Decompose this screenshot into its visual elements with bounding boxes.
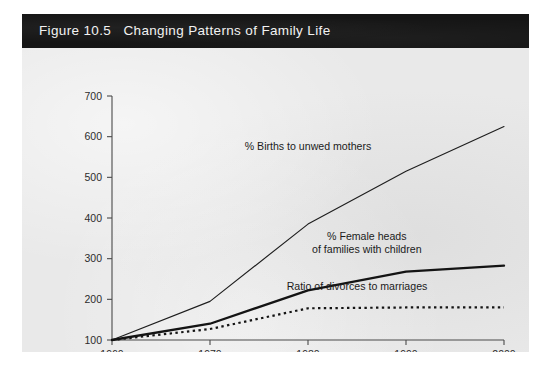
figure-panel: Figure 10.5 Changing Patterns of Family … bbox=[22, 14, 529, 352]
x-tick-label: 1960 bbox=[100, 348, 124, 352]
y-tick-label: 500 bbox=[84, 171, 102, 183]
series-label: % Female heads bbox=[327, 230, 407, 242]
series-line bbox=[112, 266, 504, 340]
figure-header-bar: Figure 10.5 Changing Patterns of Family … bbox=[22, 14, 529, 48]
y-tick-label: 600 bbox=[84, 130, 102, 142]
x-tick-label: 1980 bbox=[296, 348, 320, 352]
line-chart-svg: 100200300400500600700 196019701980199020… bbox=[22, 48, 529, 352]
chart-series-labels: % Births to unwed mothers% Female headso… bbox=[245, 140, 428, 292]
chart-series-lines bbox=[112, 127, 504, 341]
x-tick-label: 1990 bbox=[394, 348, 418, 352]
figure-title: Figure 10.5 Changing Patterns of Family … bbox=[39, 23, 331, 38]
x-axis-ticks: 19601970198019902000 bbox=[100, 340, 516, 352]
y-tick-label: 700 bbox=[84, 90, 102, 102]
x-tick-label: 2000 bbox=[492, 348, 516, 352]
series-label: % Births to unwed mothers bbox=[245, 140, 372, 152]
y-tick-label: 200 bbox=[84, 293, 102, 305]
chart-axes bbox=[112, 96, 504, 340]
series-label: of families with children bbox=[312, 243, 422, 255]
x-tick-label: 1970 bbox=[198, 348, 222, 352]
y-tick-label: 400 bbox=[84, 212, 102, 224]
series-label: Ratio of divorces to marriages bbox=[287, 280, 428, 292]
y-axis-ticks: 100200300400500600700 bbox=[84, 90, 112, 346]
chart-plot-area: 100200300400500600700 196019701980199020… bbox=[22, 48, 529, 352]
y-tick-label: 300 bbox=[84, 252, 102, 264]
series-line bbox=[112, 307, 504, 340]
y-tick-label: 100 bbox=[84, 334, 102, 346]
